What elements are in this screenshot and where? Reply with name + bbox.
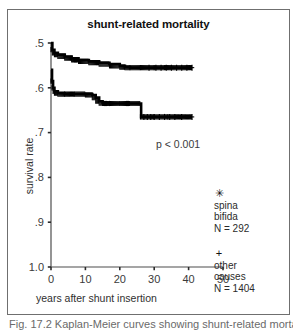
legend-label-line1: spina [214, 200, 290, 212]
asterisk-marker-icon: ✳ [214, 188, 224, 199]
figure-frame: shunt-related mortality 1.0.9.8.7.6.5010… [7, 9, 290, 315]
svg-text:.8: .8 [35, 171, 44, 183]
x-axis-title: years after shunt insertion [36, 292, 157, 304]
y-axis-title: survival rate [23, 111, 35, 221]
svg-text:.5: .5 [35, 37, 44, 49]
legend-sample-size: N = 292 [214, 223, 290, 235]
legend-item-other-causes: + other causes N = 1404 [214, 248, 290, 294]
svg-text:20: 20 [114, 273, 126, 285]
legend-label-line1: other [214, 260, 290, 272]
svg-text:10: 10 [79, 273, 91, 285]
svg-text:0: 0 [48, 273, 54, 285]
svg-text:30: 30 [148, 273, 160, 285]
legend-sample-size: N = 1404 [214, 283, 290, 295]
legend-item-spina-bifida: ✳ spina bifida N = 292 [214, 188, 290, 234]
chart-legend: ✳ spina bifida N = 292 + other causes N … [214, 188, 290, 308]
figure-caption: Fig. 17.2 Kaplan-Meier curves showing sh… [9, 318, 293, 330]
svg-text:.6: .6 [35, 82, 44, 94]
curve-other-causes [51, 43, 194, 71]
p-value-annotation: p < 0.001 [156, 138, 200, 150]
legend-label-line2: bifida [214, 211, 290, 223]
svg-text:1.0: 1.0 [29, 261, 44, 273]
svg-text:40: 40 [182, 273, 194, 285]
legend-label-line2: causes [214, 271, 290, 283]
svg-text:.9: .9 [35, 216, 44, 228]
plus-marker-icon: + [214, 248, 224, 259]
svg-text:.7: .7 [35, 126, 44, 138]
curve-spina-bifida [51, 70, 194, 120]
